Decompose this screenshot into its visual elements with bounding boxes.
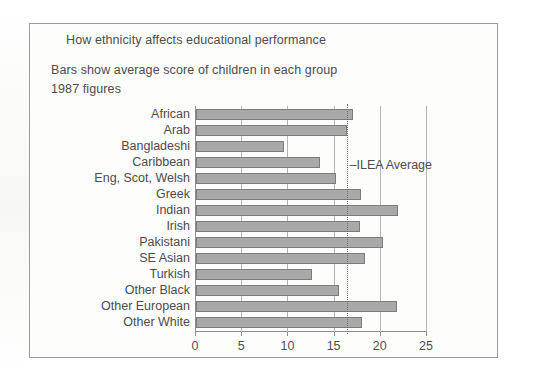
category-label: Other European	[101, 299, 190, 314]
x-tick-label-25: 25	[419, 339, 433, 353]
category-label: Greek	[156, 187, 190, 202]
x-tick-label-10: 10	[280, 339, 294, 353]
x-tick-0	[195, 332, 196, 336]
page-margin-texture	[0, 0, 30, 379]
bar-row: Other European	[195, 299, 426, 315]
bar-row: Irish	[195, 219, 426, 235]
bar	[196, 317, 362, 328]
bar	[196, 189, 361, 200]
bar	[196, 109, 353, 120]
bar	[196, 253, 365, 264]
bar-row: Eng, Scot, Welsh	[195, 171, 426, 187]
category-label: Pakistani	[139, 235, 190, 250]
category-label: African	[151, 107, 190, 122]
x-tick-label-0: 0	[192, 339, 199, 353]
bar-row: Bangladeshi	[195, 139, 426, 155]
ilea-average-label: –ILEA Average	[350, 158, 432, 172]
gridline-25	[426, 106, 427, 332]
category-label: Caribbean	[132, 155, 190, 170]
bar	[196, 141, 284, 152]
category-label: SE Asian	[139, 251, 190, 266]
category-label: Other Black	[125, 283, 190, 298]
category-label: Eng, Scot, Welsh	[94, 171, 190, 186]
category-label: Indian	[156, 203, 190, 218]
bar	[196, 285, 339, 296]
plot-area: 0510152025AfricanArabBangladeshiCaribbea…	[195, 106, 426, 332]
chart-frame: How ethnicity affects educational perfor…	[29, 23, 498, 358]
bar	[196, 237, 383, 248]
x-tick-5	[241, 332, 242, 336]
category-label: Bangladeshi	[121, 139, 190, 154]
ilea-average-line	[347, 104, 348, 334]
bar-row: Arab	[195, 123, 426, 139]
bar-row: Pakistani	[195, 235, 426, 251]
bar	[196, 301, 397, 312]
x-tick-25	[426, 332, 427, 336]
bar	[196, 125, 347, 136]
bar-row: African	[195, 107, 426, 123]
x-tick-20	[380, 332, 381, 336]
bar-row: Indian	[195, 203, 426, 219]
x-tick-label-15: 15	[327, 339, 341, 353]
chart-subtitle-primary: Bars show average score of children in e…	[51, 63, 337, 77]
bar	[196, 173, 336, 184]
bar-row: Other White	[195, 315, 426, 331]
bar-row: Turkish	[195, 267, 426, 283]
category-label: Other White	[123, 315, 190, 330]
bar	[196, 269, 312, 280]
x-tick-label-20: 20	[373, 339, 387, 353]
bar	[196, 157, 320, 168]
bar-row: Other Black	[195, 283, 426, 299]
x-tick-label-5: 5	[238, 339, 245, 353]
bar	[196, 221, 360, 232]
chart-subtitle-secondary: 1987 figures	[51, 82, 121, 96]
bar-row: SE Asian	[195, 251, 426, 267]
category-label: Irish	[166, 219, 190, 234]
x-tick-10	[287, 332, 288, 336]
category-label: Arab	[164, 123, 190, 138]
chart-title: How ethnicity affects educational perfor…	[66, 33, 326, 47]
bar	[196, 205, 398, 216]
category-label: Turkish	[149, 267, 190, 282]
bar-row: Greek	[195, 187, 426, 203]
x-axis-line	[195, 331, 426, 332]
x-tick-15	[334, 332, 335, 336]
